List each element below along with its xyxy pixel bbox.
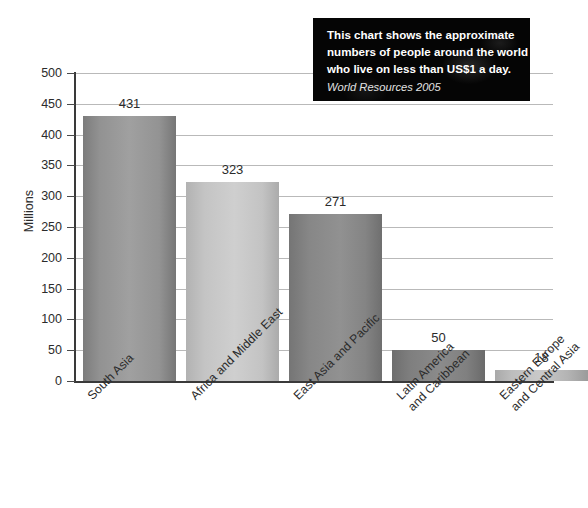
y-axis-tick bbox=[67, 319, 75, 320]
y-tick-label: 400 bbox=[22, 129, 62, 142]
y-axis-tick bbox=[67, 196, 75, 197]
gridline bbox=[75, 104, 553, 105]
bar-value-label: 323 bbox=[222, 163, 244, 176]
y-tick-label: 150 bbox=[22, 283, 62, 296]
y-axis-tick bbox=[67, 73, 75, 74]
bar-value-label: 431 bbox=[119, 97, 141, 110]
y-axis-tick bbox=[67, 289, 75, 290]
y-tick-label: 200 bbox=[22, 252, 62, 265]
plot-area: 431 323 271 50 18 bbox=[75, 73, 553, 381]
y-axis-tick bbox=[67, 104, 75, 105]
y-tick-label: 0 bbox=[22, 375, 62, 388]
y-axis-tick bbox=[67, 165, 75, 166]
annotation-callout-box: This chart shows the approximate numbers… bbox=[313, 18, 530, 101]
y-tick-label: 500 bbox=[22, 67, 62, 80]
y-axis-tick bbox=[67, 135, 75, 136]
y-axis-tick bbox=[67, 227, 75, 228]
y-tick-label: 450 bbox=[22, 98, 62, 111]
y-axis-tick bbox=[67, 350, 75, 351]
bar-south-asia: 431 bbox=[83, 116, 176, 382]
callout-line-3: who live on less than US$1 a day. bbox=[327, 61, 518, 78]
y-axis-title: Millions bbox=[22, 171, 36, 251]
y-tick-label: 100 bbox=[22, 313, 62, 326]
y-tick-label: 50 bbox=[22, 344, 62, 357]
bar-value-label: 271 bbox=[325, 195, 347, 208]
callout-source: World Resources 2005 bbox=[327, 79, 518, 96]
callout-line-2: numbers of people around the world bbox=[327, 44, 518, 61]
y-axis-tick bbox=[67, 381, 75, 382]
callout-line-1: This chart shows the approximate bbox=[327, 27, 518, 44]
y-axis-tick bbox=[67, 258, 75, 259]
